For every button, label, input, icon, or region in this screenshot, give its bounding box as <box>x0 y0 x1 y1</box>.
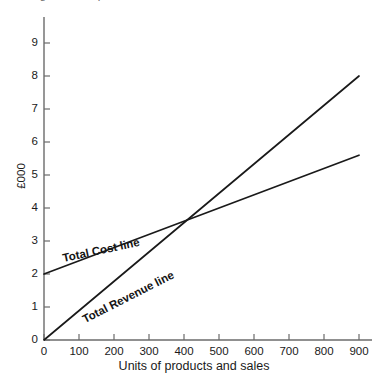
y-tick-9: 9 <box>20 36 38 48</box>
y-tick-1: 1 <box>20 300 38 312</box>
break-even-chart: 0 1 2 3 4 5 6 7 8 9 0 100 200 300 400 50… <box>0 0 388 390</box>
total-revenue-line <box>44 76 359 340</box>
x-tick-100: 100 <box>59 345 99 357</box>
y-tick-3: 3 <box>20 234 38 246</box>
y-tick-2: 2 <box>20 267 38 279</box>
x-axis-title: Units of products and sales <box>0 359 388 373</box>
y-tick-0: 0 <box>20 333 38 345</box>
x-tick-600: 600 <box>234 345 274 357</box>
x-tick-0: 0 <box>24 345 64 357</box>
x-tick-900: 900 <box>339 345 379 357</box>
x-tick-500: 500 <box>199 345 239 357</box>
x-tick-700: 700 <box>269 345 309 357</box>
x-tick-300: 300 <box>129 345 169 357</box>
x-tick-400: 400 <box>164 345 204 357</box>
y-tick-8: 8 <box>20 69 38 81</box>
y-axis-ticks <box>44 43 50 340</box>
x-tick-200: 200 <box>94 345 134 357</box>
x-axis-ticks <box>44 334 359 340</box>
y-axis-title: £000 <box>15 146 27 206</box>
y-tick-7: 7 <box>20 102 38 114</box>
x-tick-800: 800 <box>304 345 344 357</box>
